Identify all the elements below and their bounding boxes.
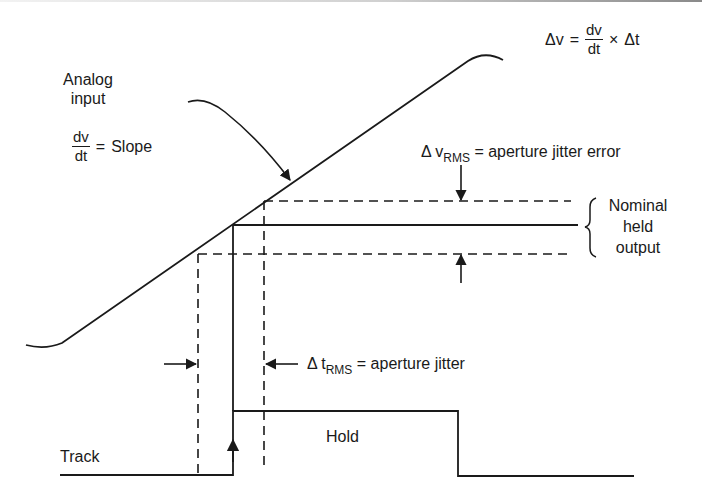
slope-frac-den: dt xyxy=(72,147,90,164)
slope-fraction: dvdt xyxy=(72,129,90,164)
slope-frac-num: dv xyxy=(72,129,90,147)
jitter-subscript: RMS xyxy=(326,363,353,377)
slope-equals: = xyxy=(96,138,105,155)
formula-times: × xyxy=(609,31,618,48)
aperture-jitter-label: Δ tRMS = aperture jitter xyxy=(307,354,465,375)
nominal-held-output-label: Nominal held output xyxy=(603,195,673,258)
nominal-line1: Nominal xyxy=(603,195,673,216)
analog-input-line2: input xyxy=(52,89,124,108)
slope-word: Slope xyxy=(111,138,152,155)
jitter-delta: Δ t xyxy=(307,355,326,372)
analog-input-line1: Analog xyxy=(52,70,124,89)
nominal-line2: held xyxy=(603,216,673,237)
nominal-output-brace xyxy=(585,198,596,257)
error-subscript: RMS xyxy=(443,151,470,165)
delta-v-formula: Δv=dvdt×Δt xyxy=(545,22,639,57)
analog-input-label: Analog input xyxy=(52,70,124,108)
formula-frac-num: dv xyxy=(585,22,603,40)
formula-fraction: dvdt xyxy=(585,22,603,57)
slope-definition: dvdt=Slope xyxy=(72,129,152,164)
slope-pointer-arrow xyxy=(188,100,290,180)
error-text: = aperture jitter error xyxy=(474,143,620,160)
formula-lhs: Δv xyxy=(545,31,564,48)
track-label: Track xyxy=(60,447,99,466)
hold-label: Hold xyxy=(326,427,359,446)
error-delta: Δ v xyxy=(421,143,443,160)
formula-rhs: Δt xyxy=(624,31,639,48)
aperture-jitter-error-label: Δ vRMS = aperture jitter error xyxy=(421,142,621,163)
formula-equals: = xyxy=(570,31,579,48)
jitter-text: = aperture jitter xyxy=(357,355,465,372)
formula-frac-den: dt xyxy=(585,40,603,57)
nominal-line3: output xyxy=(603,237,673,258)
